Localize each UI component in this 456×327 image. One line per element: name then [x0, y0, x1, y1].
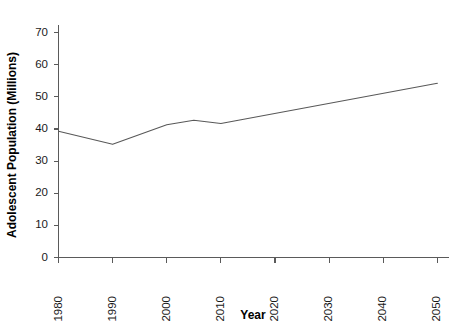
x-axis-title: Year	[240, 308, 266, 322]
x-axis-ticks	[59, 258, 438, 263]
x-tick-label: 2040	[376, 296, 388, 322]
y-tick-label: 20	[35, 186, 48, 198]
x-tick-label: 1980	[52, 296, 64, 322]
x-tick-label: 2010	[214, 296, 226, 322]
y-tick-label: 50	[35, 90, 48, 102]
y-tick-label: 30	[35, 154, 48, 166]
y-tick-label: 0	[42, 251, 48, 263]
y-tick-label: 10	[35, 218, 48, 230]
x-tick-label: 2050	[430, 296, 442, 322]
x-tick-label: 2020	[268, 296, 280, 322]
y-axis-tick-labels: 0 10 20 30 40 50 60 70	[35, 26, 48, 263]
x-tick-label: 2030	[322, 296, 334, 322]
chart-container: 0 10 20 30 40 50 60 70 1980 1990 2000 20…	[0, 0, 456, 327]
y-axis-ticks	[54, 33, 59, 258]
y-axis-title: Adolescent Population (Millions)	[5, 52, 19, 238]
line-chart: 0 10 20 30 40 50 60 70 1980 1990 2000 20…	[0, 0, 456, 327]
x-tick-label: 1990	[106, 296, 118, 322]
y-tick-label: 70	[35, 26, 48, 38]
y-tick-label: 40	[35, 122, 48, 134]
data-series-line	[59, 83, 438, 144]
y-tick-label: 60	[35, 58, 48, 70]
x-tick-label: 2000	[160, 296, 172, 322]
